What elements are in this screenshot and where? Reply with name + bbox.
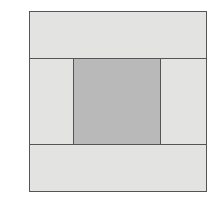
- middle-band-center-cell: [74, 59, 161, 144]
- bottom-band: [30, 145, 206, 191]
- diagram-canvas: [0, 0, 215, 207]
- middle-band: [30, 59, 206, 145]
- top-band: [30, 12, 206, 59]
- middle-band-right-cell: [161, 59, 206, 144]
- middle-band-left-cell: [30, 59, 74, 144]
- outer-rectangle: [29, 11, 207, 192]
